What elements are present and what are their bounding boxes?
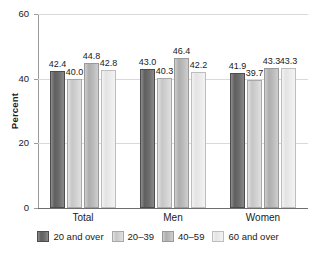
bar-chart: Percent 0204060 42.440.044.842.843.040.3… [0,0,316,253]
y-axis-tick-label: 20 [0,139,32,149]
bar-fill [191,72,206,208]
bar-value-label: 43.0 [139,58,157,67]
y-axis-tick-label-wrap: 40 [0,79,32,89]
bar-fill [67,79,82,208]
bar-value-label: 44.8 [83,52,101,61]
legend-label: 20 and over [53,231,103,242]
bar-value-label: 42.4 [49,60,67,69]
bar-group: 42.440.044.842.8 [50,14,116,208]
legend-item[interactable]: 60 and over [212,231,278,242]
bar-fill [50,71,65,208]
bar-group: 43.040.346.442.2 [140,14,206,208]
y-axis-tick-label: 60 [0,9,32,19]
bar-fill [230,73,245,208]
legend-item[interactable]: 20 and over [37,231,103,242]
x-axis-line [38,208,308,209]
y-axis-tick-label-wrap: 20 [0,143,32,153]
bar-value-label: 40.3 [156,67,174,76]
x-axis-category-label: Men [128,212,218,223]
bar-fill [84,63,99,208]
y-axis-tick-label-wrap: 60 [0,14,32,24]
bar-value-label: 39.7 [246,69,264,78]
x-axis-category-label: Total [38,212,128,223]
legend-swatch [37,231,49,242]
bar-fill [101,70,116,208]
bar-value-label: 41.9 [229,62,247,71]
bar-value-label: 43.3 [280,57,298,66]
y-axis-tick-label-wrap: 0 [0,208,32,218]
bar-fill [157,78,172,208]
bar-fill [264,68,279,208]
bar-value-label: 46.4 [173,47,191,56]
chart-legend: 20 and over20–3940–5960 and over [0,231,316,242]
bar-value-label: 43.3 [263,57,281,66]
legend-item[interactable]: 40–59 [162,231,204,242]
legend-swatch [212,231,224,242]
y-axis-tick-label: 40 [0,74,32,84]
bar-fill [281,68,296,208]
y-axis-tick-label: 0 [0,203,32,213]
legend-swatch [112,231,124,242]
bar-value-label: 42.8 [100,59,118,68]
bar-value-label: 42.2 [190,61,208,70]
legend-label: 60 and over [228,231,278,242]
legend-item[interactable]: 20–39 [112,231,154,242]
plot-area: 42.440.044.842.843.040.346.442.241.939.7… [38,14,308,208]
legend-label: 20–39 [128,231,154,242]
legend-label: 40–59 [178,231,204,242]
x-axis-category-label: Women [218,212,308,223]
legend-swatch [162,231,174,242]
bar-value-label: 40.0 [66,68,84,77]
bar-fill [247,80,262,208]
bar-fill [140,69,155,208]
y-axis-label-holder: Percent [6,14,20,208]
bar-fill [174,58,189,208]
bar-group: 41.939.743.343.3 [230,14,296,208]
